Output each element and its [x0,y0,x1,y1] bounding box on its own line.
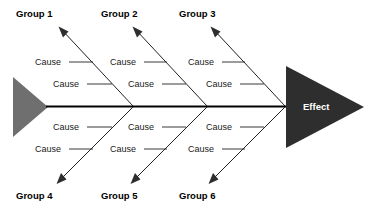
cause-label: Cause [110,57,136,67]
cause-group-4-1: Cause [35,144,93,154]
cause-label: Cause [188,57,214,67]
cause-label: Cause [206,122,232,132]
cause-label: Cause [35,57,61,67]
group-label-group-6: Group 6 [179,190,215,201]
effect-label: Effect [303,101,330,112]
cause-label: Cause [110,144,136,154]
cause-group-3-0: Cause [188,57,245,67]
cause-group-4-0: Cause [53,122,112,132]
cause-group-2-0: Cause [110,57,167,67]
cause-label: Cause [206,79,232,89]
cause-label: Cause [53,79,79,89]
group-label-group-4: Group 4 [16,190,53,201]
group-label-group-3: Group 3 [179,8,215,19]
cause-group-1-1: Cause [53,79,112,89]
cause-group-5-1: Cause [110,144,167,154]
bone-group-6 [209,107,286,184]
fishbone-diagram: Effect [0,0,375,211]
group-label-group-2: Group 2 [101,8,137,19]
bone-group-3 [211,27,286,107]
cause-label: Cause [53,122,79,132]
cause-label: Cause [128,79,154,89]
group-label-group-5: Group 5 [101,190,138,201]
cause-group-6-1: Cause [188,144,245,154]
tail-triangle [13,77,48,137]
cause-group-3-1: Cause [206,79,264,89]
cause-group-5-0: Cause [128,122,186,132]
cause-label: Cause [128,122,154,132]
fishbone-canvas: Effect [0,0,375,211]
group-label-group-1: Group 1 [16,8,53,19]
cause-label: Cause [35,144,61,154]
cause-label: Cause [188,144,214,154]
cause-group-6-0: Cause [206,122,264,132]
cause-group-2-1: Cause [128,79,186,89]
cause-group-1-0: Cause [35,57,93,67]
